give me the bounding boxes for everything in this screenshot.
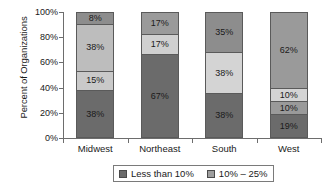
segment-value-label: 62% <box>280 46 298 55</box>
y-tick-label: 0% <box>12 133 58 143</box>
segment-value-label: 35% <box>215 28 233 37</box>
bar-west[interactable]: 62%10%10%19% <box>270 12 308 138</box>
x-category-label: West <box>249 143 329 154</box>
y-tick-label: 80% <box>12 32 58 42</box>
bar-segment: 35% <box>206 13 242 53</box>
legend-item[interactable]: Less than 10% <box>119 168 194 179</box>
chart-legend: Less than 10%10% – 25% <box>113 165 274 182</box>
legend-swatch-icon <box>119 170 127 178</box>
y-tick-label: 40% <box>12 83 58 93</box>
segment-value-label: 67% <box>151 92 169 101</box>
bar-segment: 10% <box>271 102 307 115</box>
segment-value-label: 17% <box>151 40 169 49</box>
bar-segment: 8% <box>77 13 113 25</box>
legend-label: 10% – 25% <box>219 168 268 179</box>
bar-northeast[interactable]: 17%17%67% <box>141 12 179 138</box>
segment-value-label: 38% <box>86 110 104 119</box>
bar-south[interactable]: 35%38%38% <box>205 12 243 138</box>
segment-value-label: 8% <box>89 14 102 23</box>
bar-segment: 67% <box>142 55 178 137</box>
plot-area: 8%38%15%38%17%17%67%35%38%38%62%10%10%19… <box>63 12 321 138</box>
bar-segment: 17% <box>142 35 178 56</box>
segment-value-label: 15% <box>86 76 104 85</box>
legend-item[interactable]: 10% – 25% <box>207 168 268 179</box>
bar-midwest[interactable]: 8%38%15%38% <box>76 12 114 138</box>
bar-segment: 38% <box>77 25 113 72</box>
bar-segment: 38% <box>206 53 242 94</box>
bar-segment: 62% <box>271 13 307 89</box>
segment-value-label: 19% <box>280 122 298 131</box>
bar-segment: 15% <box>77 72 113 91</box>
legend-swatch-icon <box>207 170 215 178</box>
segment-value-label: 38% <box>86 43 104 52</box>
legend-label: Less than 10% <box>131 168 194 179</box>
stacked-bar-chart: Percent of Organizations 0%20%40%60%80%1… <box>0 0 330 186</box>
y-tick-label: 60% <box>12 57 58 67</box>
segment-value-label: 10% <box>280 91 298 100</box>
y-tick-label: 20% <box>12 108 58 118</box>
bar-segment: 10% <box>271 89 307 102</box>
bar-segment: 17% <box>142 13 178 35</box>
bar-segment: 38% <box>206 94 242 137</box>
segment-value-label: 17% <box>151 19 169 28</box>
segment-value-label: 38% <box>215 111 233 120</box>
segment-value-label: 38% <box>215 69 233 78</box>
y-tick-label: 100% <box>12 7 58 17</box>
bar-segment: 38% <box>77 91 113 137</box>
segment-value-label: 10% <box>280 104 298 113</box>
bar-segment: 19% <box>271 115 307 137</box>
